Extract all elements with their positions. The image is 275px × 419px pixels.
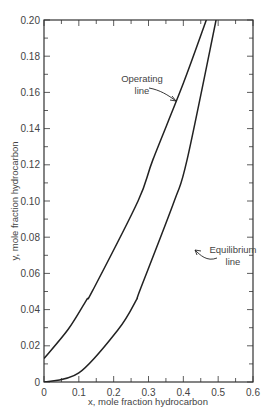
equilibrium-line-annotation-line1: Equilibrium: [210, 244, 257, 255]
y-tick-label: 0.04: [21, 304, 41, 315]
y-tick-label: 0: [34, 377, 40, 388]
y-tick-label: 0.12: [21, 159, 41, 170]
annotations: Operating line Equilibrium line: [121, 73, 256, 267]
y-tick-label: 0.16: [21, 87, 41, 98]
y-tick-label: 0.20: [21, 15, 41, 26]
x-axis-label: x, mole fraction hydrocarbon: [88, 396, 208, 407]
x-tick-label: 0.1: [72, 387, 86, 398]
y-tick-label: 0.10: [21, 196, 41, 207]
equilibrium-line-annotation-line2: line: [226, 256, 241, 267]
x-tick-label: 0.5: [211, 387, 225, 398]
operating-arrow: [149, 88, 176, 101]
y-axis-label: y, mole fraction hydrocarbon: [9, 141, 20, 260]
y-tick-label: 0.02: [21, 340, 41, 351]
y-tick-label: 0.14: [21, 123, 41, 134]
operating-line: [44, 20, 206, 358]
equilibrium-chart: 00.10.20.30.40.50.600.020.040.060.080.10…: [0, 0, 275, 419]
y-tick-label: 0.08: [21, 232, 41, 243]
operating-line-annotation-line2: line: [135, 85, 150, 96]
x-tick-label: 0: [41, 387, 47, 398]
x-tick-label: 0.6: [246, 387, 260, 398]
y-tick-label: 0.18: [21, 51, 41, 62]
operating-line-annotation-line1: Operating: [121, 73, 163, 84]
y-tick-label: 0.06: [21, 268, 41, 279]
